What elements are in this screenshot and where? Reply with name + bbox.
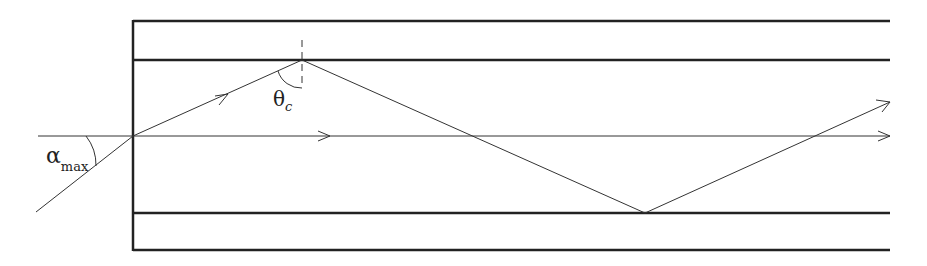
theta-label: θc	[273, 87, 293, 114]
ray-exit-arrow-icon	[876, 100, 890, 112]
ray-arrow-icon	[215, 94, 228, 105]
alpha-label: αmax	[46, 143, 89, 174]
ray-segment-3	[645, 102, 890, 213]
critical-angle-arc	[278, 71, 302, 88]
fiber-diagram: θc αmax	[0, 0, 927, 266]
